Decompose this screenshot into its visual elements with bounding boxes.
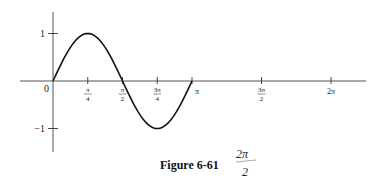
y-tick-label: −1 xyxy=(34,123,45,134)
origin-label: 0 xyxy=(44,83,49,94)
handwritten-denominator: 2 xyxy=(242,165,248,179)
x-tick-label-numerator: 3π xyxy=(258,86,266,94)
x-tick-label-denominator: 4 xyxy=(156,95,160,103)
axes: 0 xyxy=(20,12,366,152)
y-tick-label: 1 xyxy=(40,28,45,39)
figure-caption: Figure 6-61 xyxy=(160,158,219,173)
x-tick-label: π xyxy=(195,87,199,96)
x-tick-label-denominator: 2 xyxy=(260,95,264,103)
x-tick-label-numerator: π xyxy=(121,86,125,94)
x-tick-label-numerator: 3π xyxy=(154,86,162,94)
x-tick-label-denominator: 2 xyxy=(121,95,125,103)
handwritten-note: 2π2 xyxy=(236,147,256,179)
x-tick-label-denominator: 4 xyxy=(86,95,90,103)
x-tick-label: 2π xyxy=(327,87,335,96)
x-tick-label-numerator: π xyxy=(86,86,90,94)
handwritten-numerator: 2π xyxy=(236,147,249,161)
